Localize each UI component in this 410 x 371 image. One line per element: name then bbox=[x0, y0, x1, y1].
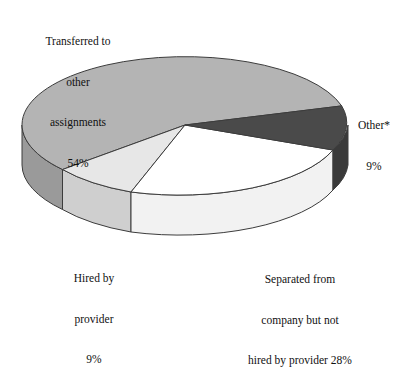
slice-label-separated-line1: Separated from bbox=[192, 273, 408, 287]
slice-label-transferred-line3: assignments bbox=[14, 116, 142, 130]
slice-label-hired-value: 9% bbox=[38, 353, 150, 367]
slice-label-hired: Hired by provider 9% bbox=[38, 245, 150, 371]
slice-label-transferred: Transferred to other assignments 54% bbox=[14, 8, 142, 197]
slice-label-other: Other* 9% bbox=[340, 92, 408, 200]
slice-label-hired-line2: provider bbox=[38, 313, 150, 327]
slice-label-other-value: 9% bbox=[340, 160, 408, 174]
slice-label-transferred-value: 54% bbox=[14, 157, 142, 171]
slice-label-hired-line1: Hired by bbox=[38, 272, 150, 286]
slice-label-other-line1: Other* bbox=[340, 119, 408, 133]
slice-label-separated-line2: company but not bbox=[192, 314, 408, 328]
slice-label-separated-value: hired by provider 28% bbox=[192, 354, 408, 368]
slice-label-transferred-line1: Transferred to bbox=[14, 35, 142, 49]
slice-label-separated: Separated from company but not hired by … bbox=[192, 246, 408, 371]
slice-label-transferred-line2: other bbox=[14, 76, 142, 90]
